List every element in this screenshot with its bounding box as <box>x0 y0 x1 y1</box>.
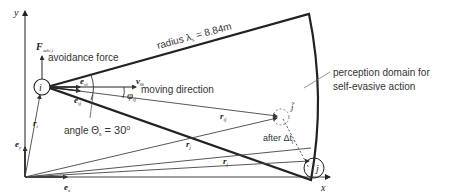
ri-label: ri <box>33 118 39 129</box>
ri-vector <box>25 95 40 177</box>
rj-vector <box>25 148 311 177</box>
rj-tilde-label: rj̃ <box>186 139 192 150</box>
y-axis-label: y <box>13 7 19 18</box>
phi-label: φij̃ <box>127 89 137 102</box>
x-axis-label: x <box>320 182 326 193</box>
displacement-dashed-line <box>283 119 309 168</box>
rj-vector-b <box>25 161 309 177</box>
ex-label: ex <box>64 182 71 193</box>
rij-label: rij̃ <box>220 111 227 122</box>
rj-tilde-vector <box>25 118 277 177</box>
pedestrian-j-label: j <box>314 163 319 174</box>
after-dt-label: after Δtj <box>263 133 293 144</box>
rj-label: rj <box>223 156 229 167</box>
pedestrian-i-label: i <box>39 82 42 93</box>
perception-domain-label-line2: self-evasive action <box>333 81 415 92</box>
theta-angle-label: angle Θs = 30o <box>64 124 130 137</box>
ey-label: ey <box>15 139 22 150</box>
pedestrian-i-circle <box>34 79 50 95</box>
diagram-canvas: i j̃ j y x ex ey ri rj̃ rj rij̃ Fselc,i … <box>0 0 449 194</box>
radius-label: radius λs = 8.84m <box>156 20 233 51</box>
moving-direction-label: moving direction <box>141 84 214 95</box>
pedestrian-j-tilde-label: j̃ <box>290 102 295 112</box>
e-ij-label: eij̃ <box>74 95 81 106</box>
avoidance-force-label: avoidance force <box>48 52 119 63</box>
perception-domain-label-line1: perception domain for <box>333 67 430 78</box>
pedestrian-j-tilde-circle <box>273 109 289 125</box>
